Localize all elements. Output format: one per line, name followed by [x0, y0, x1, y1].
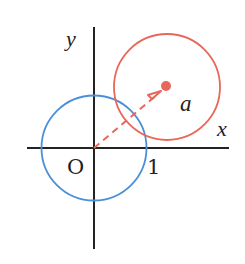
- dashed-vector-line: [94, 94, 158, 148]
- point-a-dot: [161, 81, 171, 91]
- arrowhead-icon: [148, 91, 161, 99]
- complex-plane-diagram: y x O 1 a: [0, 0, 245, 264]
- origin-label: O: [67, 155, 84, 179]
- x-axis-label: x: [216, 116, 227, 141]
- unit-tick-label: 1: [147, 155, 160, 179]
- point-a-label: a: [180, 91, 192, 116]
- y-axis-label: y: [64, 26, 76, 51]
